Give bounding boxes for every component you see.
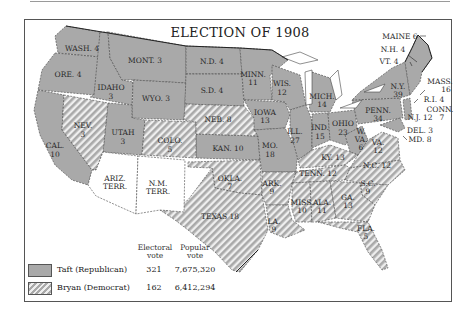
label-colo: COLO. (158, 136, 183, 145)
label-wyo: WYO. 3 (142, 94, 170, 103)
label-mo: MO. (262, 141, 278, 150)
label-idaho-ev: 3 (109, 92, 114, 101)
label-iowa-ev: 13 (260, 116, 270, 125)
legend-row-taft: Taft (Republican) 321 7,675,320 (28, 264, 228, 278)
label-mont: MONT. 3 (128, 56, 162, 65)
label-nev: NEV. (74, 121, 93, 130)
label-la-ev: 9 (272, 225, 277, 234)
label-wva-ev: 6 (359, 143, 364, 152)
label-ind: IND. (311, 123, 329, 132)
label-wis: WIS. (273, 79, 291, 88)
swatch-republican (28, 264, 52, 277)
legend-name: Bryan (Democrat) (57, 283, 130, 292)
label-colo-ev: 5 (168, 145, 173, 154)
legend-electoral: 162 (141, 283, 167, 292)
label-del: DEL. 3 (407, 126, 433, 135)
legend-header-electoral: Electoral vote (135, 244, 175, 260)
label-penn-ev: 34 (373, 114, 383, 123)
legend-header-popular-2: vote (173, 252, 217, 260)
label-sc-ev: 9 (366, 187, 371, 196)
label-utah: UTAH (112, 128, 135, 137)
label-nev-ev: 3 (81, 130, 86, 139)
legend-popular: 7,675,320 (170, 265, 220, 274)
label-conn-ev: 7 (440, 113, 445, 122)
label-ohio-ev: 23 (338, 128, 348, 137)
label-neb: NEB. 8 (204, 115, 231, 124)
label-nc: N.C. 12 (363, 161, 391, 170)
label-miss-ev: 10 (297, 206, 307, 215)
label-wash: WASH. 4 (65, 44, 99, 53)
label-ark-ev: 9 (270, 187, 275, 196)
legend-row-bryan: Bryan (Democrat) 162 6,412,294 (28, 282, 228, 296)
label-minn-ev: 11 (248, 78, 258, 87)
label-ind-ev: 15 (315, 132, 325, 141)
label-ore: ORE. 4 (55, 70, 82, 79)
label-ill: ILL. (287, 127, 302, 136)
label-nj: N.J. 12 (407, 113, 432, 122)
label-utah-ev: 3 (121, 137, 126, 146)
label-cal-ev: 10 (50, 150, 60, 159)
label-nm-terr: TERR. (146, 187, 170, 196)
label-va-ev: 12 (373, 146, 383, 155)
swatch-democrat (28, 282, 52, 295)
label-mo-ev: 18 (265, 150, 275, 159)
legend-header-popular: Popular vote (173, 244, 217, 260)
state-fla (318, 222, 388, 270)
label-cal: CAL. (46, 141, 65, 150)
label-kan: KAN. 10 (212, 144, 243, 153)
label-md: MD. 8 (409, 135, 432, 144)
legend-name: Taft (Republican) (57, 265, 127, 274)
label-texas: TEXAS 18 (201, 212, 239, 221)
legend-electoral: 321 (141, 265, 167, 274)
label-idaho: IDAHO (97, 83, 124, 92)
label-ny-ev: 39 (393, 90, 403, 99)
label-ri: R.I. 4 (424, 95, 445, 104)
label-wis-ev: 12 (277, 88, 287, 97)
label-ariz-terr: TERR. (103, 182, 127, 191)
map-title: ELECTION OF 1908 (150, 25, 330, 40)
label-ga-ev: 13 (343, 201, 353, 210)
label-maine: MAINE 6 (382, 32, 417, 41)
legend-header-electoral-2: vote (135, 252, 175, 260)
label-tenn: TENN. 12 (299, 169, 337, 178)
label-mass-ev: 16 (441, 85, 451, 94)
label-nh: N.H. 4 (381, 45, 406, 54)
label-vt: VT. 4 (379, 57, 399, 66)
label-sd: S.D. 4 (201, 86, 224, 95)
label-fla-ev: 5 (364, 232, 369, 241)
state-new-england (405, 35, 432, 95)
label-okla-ev: 7 (228, 182, 233, 191)
label-ohio: OHIO (332, 119, 354, 128)
label-ala-ev: 11 (317, 206, 327, 215)
label-ky: KY. 13 (321, 153, 345, 162)
label-ill-ev: 27 (290, 136, 300, 145)
legend-popular: 6,412,294 (170, 283, 220, 292)
label-mich-ev: 14 (317, 100, 327, 109)
label-nd: N.D. 4 (200, 57, 224, 66)
